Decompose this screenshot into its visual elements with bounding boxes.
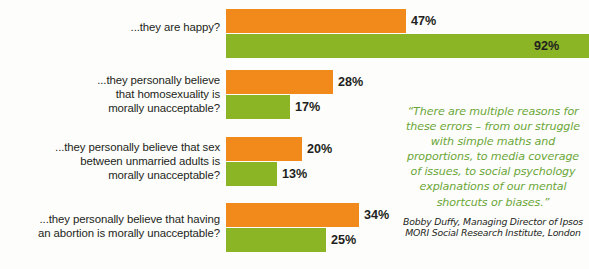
- category-label-line: ...they personally believe: [0, 73, 220, 87]
- bar-value-green: 92%: [534, 34, 567, 58]
- bar-value-green: 13%: [277, 162, 307, 186]
- category-label-line: ...they personally believe that sex: [0, 140, 220, 154]
- category-label: ...they personally believe that sex betw…: [0, 140, 220, 183]
- category-label: ...they personally believe that homosexu…: [0, 73, 220, 116]
- bar-value-orange: 34%: [359, 203, 389, 227]
- bar-value-orange: 47%: [406, 9, 436, 33]
- bar-value-green: 25%: [326, 228, 356, 252]
- bar-orange: [226, 70, 333, 94]
- category-label-line: ...they personally believe that having: [0, 212, 220, 226]
- bar-green: [226, 162, 277, 186]
- bar-green: [226, 95, 290, 119]
- category-label-line: ...they are happy?: [0, 20, 220, 34]
- bar-orange: [226, 137, 302, 161]
- quote-text: “There are multiple reasons for these er…: [400, 104, 586, 210]
- category-label-line: morally unacceptable?: [0, 101, 220, 115]
- bar-value-orange: 20%: [302, 137, 332, 161]
- bar-value-orange: 28%: [333, 70, 363, 94]
- category-label: ...they are happy?: [0, 20, 220, 34]
- quote-attribution: Bobby Duffy, Managing Director of Ipsos …: [400, 216, 586, 239]
- category-label-line: an abortion is morally unacceptable?: [0, 226, 220, 240]
- category-label: ...they personally believe that having a…: [0, 212, 220, 240]
- category-label-line: that homosexuality is: [0, 87, 220, 101]
- bar-orange: [226, 9, 406, 33]
- bar-orange: [226, 203, 359, 227]
- category-label-line: between unmarried adults is: [0, 154, 220, 168]
- category-label-line: morally unacceptable?: [0, 168, 220, 182]
- pull-quote: “There are multiple reasons for these er…: [400, 104, 586, 239]
- bar-value-green: 17%: [290, 95, 320, 119]
- bar-chart: ...they are happy? 47% 92% ...they perso…: [0, 0, 589, 269]
- bar-green: [226, 228, 326, 252]
